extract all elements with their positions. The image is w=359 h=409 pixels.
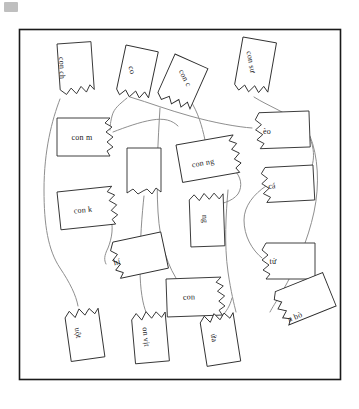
card-on-vit[interactable] [131,310,169,364]
card-con-k[interactable] [57,186,119,230]
worksheet-canvas: con ch co con c con sư con m èo con ng c… [0,0,359,409]
card-con[interactable] [166,277,225,317]
card-tu[interactable] [262,243,315,279]
card-con-m[interactable] [57,118,113,156]
card-nu[interactable] [189,193,225,247]
worksheet-diagram [0,0,359,409]
card-uot[interactable] [64,306,105,361]
card-ua[interactable] [199,311,241,367]
card-blank[interactable] [127,148,161,194]
card-con-ch[interactable] [57,42,94,95]
card-eo[interactable] [255,111,310,149]
